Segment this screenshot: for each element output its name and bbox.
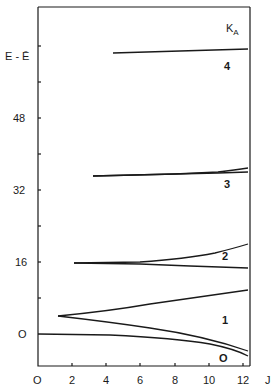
x-tick-4: 4 — [103, 374, 109, 386]
label-ka-3: 3 — [224, 178, 230, 190]
curve-ka-2-lower — [74, 263, 248, 268]
x-tick-0: O — [33, 374, 42, 386]
label-ka-4: 4 — [224, 60, 231, 72]
x-tick-10: 10 — [203, 374, 215, 386]
x-tick-6: 6 — [137, 374, 143, 386]
label-ka-0: O — [219, 352, 228, 364]
legend-title: KA — [226, 22, 239, 37]
curve-ka-1-upper — [58, 290, 248, 316]
y-tick-0: O — [18, 328, 27, 340]
y-axis-title: E - Ē — [5, 50, 29, 62]
label-ka-2: 2 — [222, 250, 228, 262]
y-tick-16: 16 — [15, 256, 27, 268]
y-tick-48: 48 — [13, 112, 25, 124]
energy-level-chart: E - Ē 48 32 16 O O 2 4 6 8 10 12 J KA 4 … — [0, 0, 276, 389]
label-ka-1: 1 — [222, 314, 228, 326]
x-tick-12: 12 — [237, 374, 249, 386]
curve-ka-0 — [38, 334, 248, 356]
curve-ka-4 — [113, 49, 248, 53]
legend-title-sub: A — [233, 28, 239, 37]
x-axis-title: J — [265, 374, 271, 386]
x-tick-2: 2 — [69, 374, 75, 386]
x-tick-8: 8 — [172, 374, 178, 386]
curve-ka-3-upper — [93, 168, 248, 176]
plot-frame-outline — [38, 7, 250, 366]
y-tick-32: 32 — [13, 184, 25, 196]
